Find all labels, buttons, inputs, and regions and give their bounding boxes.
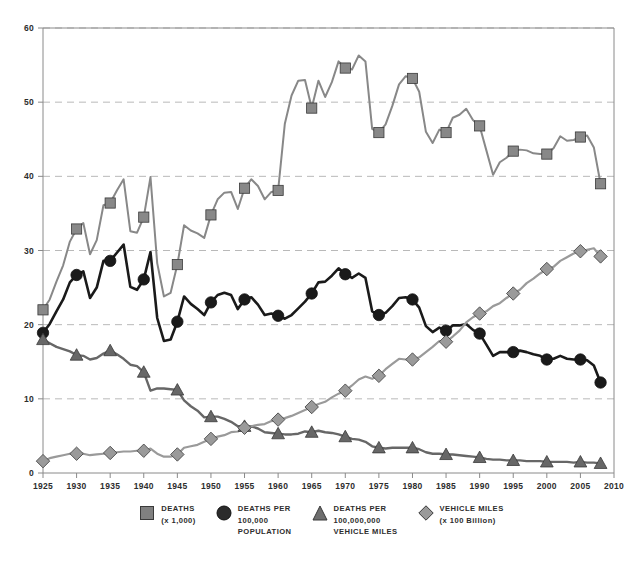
y-axis-label-60: 60 (24, 23, 34, 33)
marker-square-1945 (172, 259, 182, 269)
legend-line-3: VEHICLE MILES (334, 526, 398, 538)
x-axis-label-1975: 1975 (369, 481, 389, 491)
legend-item-0[interactable]: DEATHS(x 1,000) (139, 503, 195, 526)
marker-diamond-1940 (137, 444, 150, 457)
y-axis-ticks (38, 28, 43, 473)
legend-line-2: (x 100 Billion) (440, 515, 504, 527)
marker-diamond-1990 (473, 307, 486, 320)
x-axis-label-2010: 2010 (604, 481, 624, 491)
legend-item-label: DEATHS(x 1,000) (161, 503, 195, 526)
marker-square-1935 (105, 198, 115, 208)
x-axis-label-2000: 2000 (537, 481, 557, 491)
marker-square-2008 (595, 179, 605, 189)
marker-square-1940 (139, 212, 149, 222)
legend-line-1: VEHICLE MILES (440, 503, 504, 515)
legend-circle-icon (216, 505, 232, 521)
marker-square-1970 (340, 63, 350, 73)
legend-line-2: 100,000,000 (334, 515, 398, 527)
marker-square-1995 (508, 146, 518, 156)
x-axis-label-1960: 1960 (268, 481, 288, 491)
x-axis-label-1980: 1980 (402, 481, 422, 491)
chart-legend: DEATHS(x 1,000)DEATHS PER100,000POPULATI… (0, 503, 633, 561)
y-axis-label-20: 20 (24, 320, 34, 330)
legend-square-icon (139, 505, 155, 521)
legend-line-2: (x 1,000) (161, 515, 195, 527)
marker-triangle-1935 (104, 344, 117, 355)
marker-square-1930 (71, 224, 81, 234)
marker-circle-1930 (71, 269, 82, 280)
marker-circle-1960 (272, 310, 283, 321)
marker-circle-1965 (306, 288, 317, 299)
x-axis-label-1985: 1985 (436, 481, 456, 491)
x-axis-label-2005: 2005 (570, 481, 590, 491)
x-axis-label-1965: 1965 (302, 481, 322, 491)
marker-circle-1990 (474, 328, 485, 339)
marker-circle-1980 (407, 294, 418, 305)
x-axis-label-1940: 1940 (134, 481, 154, 491)
marker-square-1950 (206, 210, 216, 220)
x-axis-label-1935: 1935 (100, 481, 120, 491)
x-axis-ticks (43, 473, 614, 478)
x-axis-label-1995: 1995 (503, 481, 523, 491)
marker-circle-2008 (595, 377, 606, 388)
y-axis-label-30: 30 (24, 246, 34, 256)
series-line-2 (43, 340, 601, 464)
x-axis-label-1950: 1950 (201, 481, 221, 491)
marker-square-2000 (542, 149, 552, 159)
legend-item-2[interactable]: DEATHS PER100,000,000VEHICLE MILES (312, 503, 398, 538)
marker-square-1985 (441, 127, 451, 137)
marker-diamond-2005 (574, 245, 587, 258)
legend-item-label: DEATHS PER100,000,000VEHICLE MILES (334, 503, 398, 538)
marker-square-2005 (575, 132, 585, 142)
series-markers (36, 63, 607, 469)
x-axis-label-1945: 1945 (167, 481, 187, 491)
marker-square-1960 (273, 185, 283, 195)
marker-circle-1945 (172, 316, 183, 327)
marker-diamond-1955 (238, 421, 251, 434)
legend-item-label: VEHICLE MILES(x 100 Billion) (440, 503, 504, 526)
x-axis-label-1930: 1930 (67, 481, 87, 491)
marker-diamond-1965 (305, 400, 318, 413)
legend-item-1[interactable]: DEATHS PER100,000POPULATION (216, 503, 292, 538)
legend-diamond-icon (418, 505, 434, 521)
legend-triangle-glyph (313, 506, 327, 520)
x-axis-label-1925: 1925 (33, 481, 53, 491)
marker-circle-1995 (508, 346, 519, 357)
legend-row: DEATHS(x 1,000)DEATHS PER100,000POPULATI… (0, 503, 633, 538)
marker-diamond-1960 (271, 413, 284, 426)
marker-circle-1955 (239, 294, 250, 305)
marker-diamond-1935 (103, 446, 116, 459)
marker-square-1990 (475, 121, 485, 131)
legend-line-2: 100,000 (238, 515, 292, 527)
legend-line-3: POPULATION (238, 526, 292, 538)
legend-diamond-glyph (418, 506, 432, 520)
marker-diamond-1950 (204, 432, 217, 445)
legend-triangle-icon (312, 505, 328, 521)
marker-diamond-1930 (70, 447, 83, 460)
y-axis-label-10: 10 (24, 394, 34, 404)
marker-circle-1975 (373, 309, 384, 320)
y-axis-label-50: 50 (24, 97, 34, 107)
legend-line-1: DEATHS PER (238, 503, 292, 515)
x-axis-label-1955: 1955 (234, 481, 254, 491)
x-axis-labels: 1925193019351940194519501955196019651970… (33, 481, 624, 491)
marker-circle-1950 (205, 297, 216, 308)
y-axis-label-0: 0 (29, 468, 34, 478)
marker-square-1975 (374, 127, 384, 137)
marker-circle-1935 (104, 255, 115, 266)
marker-circle-2005 (575, 354, 586, 365)
marker-diamond-1995 (507, 287, 520, 300)
marker-circle-1940 (138, 274, 149, 285)
marker-square-1955 (239, 183, 249, 193)
legend-item-3[interactable]: VEHICLE MILES(x 100 Billion) (418, 503, 504, 526)
marker-diamond-2000 (540, 262, 553, 275)
legend-square-glyph (141, 507, 154, 520)
marker-circle-2000 (541, 354, 552, 365)
x-axis-label-1970: 1970 (335, 481, 355, 491)
legend-item-label: DEATHS PER100,000POPULATION (238, 503, 292, 538)
marker-diamond-1925 (36, 454, 49, 467)
legend-line-1: DEATHS PER (334, 503, 398, 515)
marker-square-1965 (307, 103, 317, 113)
y-axis-labels: 0102030405060 (24, 23, 34, 478)
legend-line-1: DEATHS (161, 503, 195, 515)
